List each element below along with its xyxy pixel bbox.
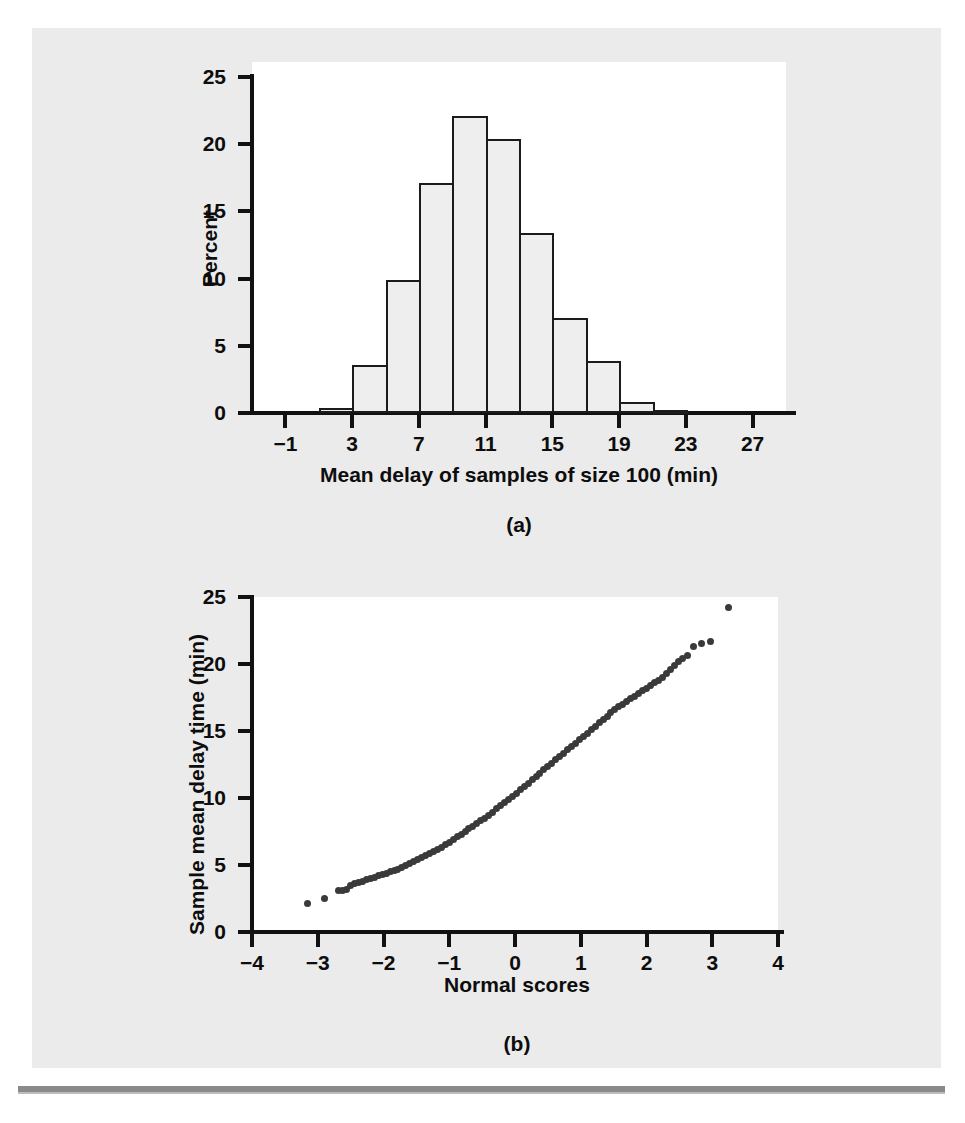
- histogram-y-tick: [238, 142, 252, 146]
- histogram-x-tick-label: 19: [589, 433, 649, 454]
- qq-x-tick-label: 4: [748, 952, 808, 973]
- histogram-x-tick-label: −1: [255, 433, 315, 454]
- histogram-y-tick-label: 0: [178, 402, 226, 423]
- qq-x-tick-label: 3: [682, 952, 742, 973]
- histogram-bar: [653, 410, 688, 414]
- histogram-x-tick: [684, 415, 688, 428]
- qq-x-tick-label: −4: [222, 952, 282, 973]
- histogram-x-tick-label: 23: [656, 433, 716, 454]
- qq-x-tick-label: −2: [354, 952, 414, 973]
- histogram-x-tick-label: 27: [723, 433, 783, 454]
- qq-plot-area: [252, 597, 778, 930]
- histogram-y-axis-title: Percent: [198, 210, 222, 287]
- histogram-bar: [352, 365, 387, 413]
- histogram-x-axis-title: Mean delay of samples of size 100 (min): [257, 463, 781, 487]
- histogram-y-tick-label: 25: [178, 66, 226, 87]
- qq-x-axis-title: Normal scores: [250, 973, 784, 997]
- histogram-x-tick: [617, 415, 621, 428]
- histogram-x-tick-label: 3: [322, 433, 382, 454]
- histogram-bar: [552, 318, 587, 413]
- histogram-y-tick: [238, 209, 252, 213]
- qq-y-axis-line: [250, 595, 254, 932]
- qq-y-tick: [238, 863, 252, 867]
- qq-y-axis-title: Sample mean delay time (min): [185, 634, 209, 935]
- histogram-y-tick: [238, 344, 252, 348]
- histogram-y-tick: [238, 75, 252, 79]
- panel-b-normal-probability-plot: 0510152025 −4−3−2−101234 Sample mean del…: [0, 545, 965, 1090]
- histogram-bar: [452, 116, 487, 413]
- histogram-x-tick-label: 11: [456, 433, 516, 454]
- qq-data-point: [321, 895, 328, 902]
- qq-x-tick-label: 1: [551, 952, 611, 973]
- histogram-x-tick-label: 7: [389, 433, 449, 454]
- histogram-x-tick: [283, 415, 287, 428]
- histogram-bar: [586, 361, 621, 413]
- qq-y-tick: [238, 729, 252, 733]
- histogram-bar: [619, 402, 654, 413]
- qq-y-tick: [238, 662, 252, 666]
- qq-x-tick: [250, 934, 254, 947]
- histogram-bar: [319, 408, 354, 413]
- histogram-bar: [386, 280, 421, 413]
- figure-root: 0510152025 −1371115192327 Percent Mean d…: [0, 0, 965, 1123]
- qq-x-tick-label: −3: [288, 952, 348, 973]
- qq-y-tick: [238, 796, 252, 800]
- histogram-bar: [486, 139, 521, 413]
- histogram-x-tick-label: 15: [522, 433, 582, 454]
- histogram-bar: [419, 183, 454, 413]
- qq-x-tick: [579, 934, 583, 947]
- qq-x-tick: [447, 934, 451, 947]
- qq-x-tick: [710, 934, 714, 947]
- histogram-x-tick: [751, 415, 755, 428]
- bottom-divider-shadow: [18, 1092, 945, 1094]
- qq-x-tick: [382, 934, 386, 947]
- histogram-y-tick-label: 5: [178, 335, 226, 356]
- qq-x-tick-label: 2: [617, 952, 677, 973]
- qq-x-tick: [776, 934, 780, 947]
- histogram-x-tick: [550, 415, 554, 428]
- histogram-x-tick: [484, 415, 488, 428]
- histogram-bar: [519, 233, 554, 413]
- qq-x-tick: [513, 934, 517, 947]
- qq-x-axis-line: [250, 930, 784, 934]
- qq-x-tick-label: 0: [485, 952, 545, 973]
- histogram-x-tick: [417, 415, 421, 428]
- qq-x-tick-label: −1: [419, 952, 479, 973]
- histogram-y-tick-label: 20: [178, 133, 226, 154]
- histogram-y-tick: [238, 277, 252, 281]
- panel-b-caption: (b): [250, 1032, 784, 1056]
- panel-a-histogram: 0510152025 −1371115192327 Percent Mean d…: [0, 0, 965, 545]
- histogram-x-tick: [350, 415, 354, 428]
- qq-y-tick: [238, 595, 252, 599]
- qq-x-tick: [316, 934, 320, 947]
- qq-x-tick: [645, 934, 649, 947]
- panel-a-caption: (a): [257, 513, 781, 537]
- histogram-y-axis-line: [250, 74, 254, 415]
- histogram-y-tick: [238, 411, 252, 415]
- qq-y-tick-label: 25: [178, 586, 226, 607]
